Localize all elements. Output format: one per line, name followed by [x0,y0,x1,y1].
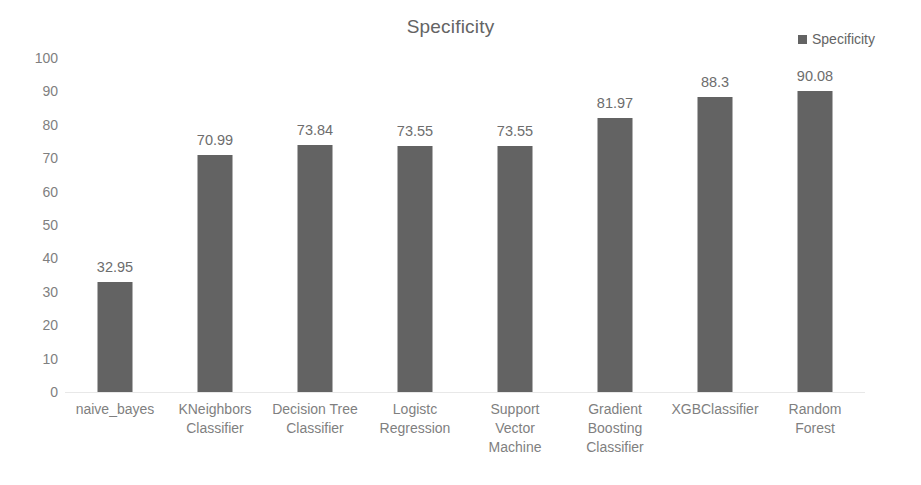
bar-group: 90.08Random Forest [765,0,865,485]
bar-group: 70.99KNeighbors Classifier [165,0,265,485]
bar-group: 81.97Gradient Boosting Classifier [565,0,665,485]
y-axis-tick-0: 0 [0,384,58,400]
bar-value-label: 73.55 [397,123,433,139]
bar[interactable] [498,146,533,392]
y-axis-tick-10: 10 [0,351,58,367]
bar-value-label: 88.3 [701,74,729,90]
y-axis-tick-60: 60 [0,184,58,200]
bar-value-label: 73.55 [497,123,533,139]
bar[interactable] [198,155,233,392]
bar-value-label: 32.95 [97,259,133,275]
x-axis-category-label: KNeighbors Classifier [161,400,269,438]
bar[interactable] [698,97,733,392]
y-axis-tick-90: 90 [0,83,58,99]
x-axis-category-label: XGBClassifier [661,400,769,419]
y-axis-tick-30: 30 [0,284,58,300]
bar-value-label: 90.08 [797,68,833,84]
bar-group: 73.84Decision Tree Classifier [265,0,365,485]
x-axis-category-label: Support Vector Machine [461,400,569,457]
x-axis-category-label: naive_bayes [61,400,169,419]
x-axis-category-label: Gradient Boosting Classifier [561,400,669,457]
y-axis-tick-40: 40 [0,250,58,266]
bar-group: 73.55Support Vector Machine [465,0,565,485]
bar[interactable] [798,91,833,392]
y-axis: 1009080706050403020100 [0,0,58,485]
bar-group: 88.3XGBClassifier [665,0,765,485]
bar-group: 32.95naive_bayes [65,0,165,485]
bar[interactable] [598,118,633,392]
bar-value-label: 70.99 [197,132,233,148]
specificity-bar-chart: Specificity Specificity 1009080706050403… [0,0,921,485]
bar-series-specificity: 32.95naive_bayes70.99KNeighbors Classifi… [65,0,865,485]
x-axis-category-label: Logistc Regression [361,400,469,438]
y-axis-tick-50: 50 [0,217,58,233]
y-axis-tick-70: 70 [0,150,58,166]
bar-group: 73.55Logistc Regression [365,0,465,485]
bar-value-label: 81.97 [597,95,633,111]
y-axis-tick-100: 100 [0,50,58,66]
x-axis-category-label: Random Forest [761,400,869,438]
bar[interactable] [398,146,433,392]
bar-value-label: 73.84 [297,122,333,138]
bar[interactable] [98,282,133,392]
x-axis-category-label: Decision Tree Classifier [261,400,369,438]
bar[interactable] [298,145,333,392]
y-axis-tick-20: 20 [0,317,58,333]
y-axis-tick-80: 80 [0,117,58,133]
